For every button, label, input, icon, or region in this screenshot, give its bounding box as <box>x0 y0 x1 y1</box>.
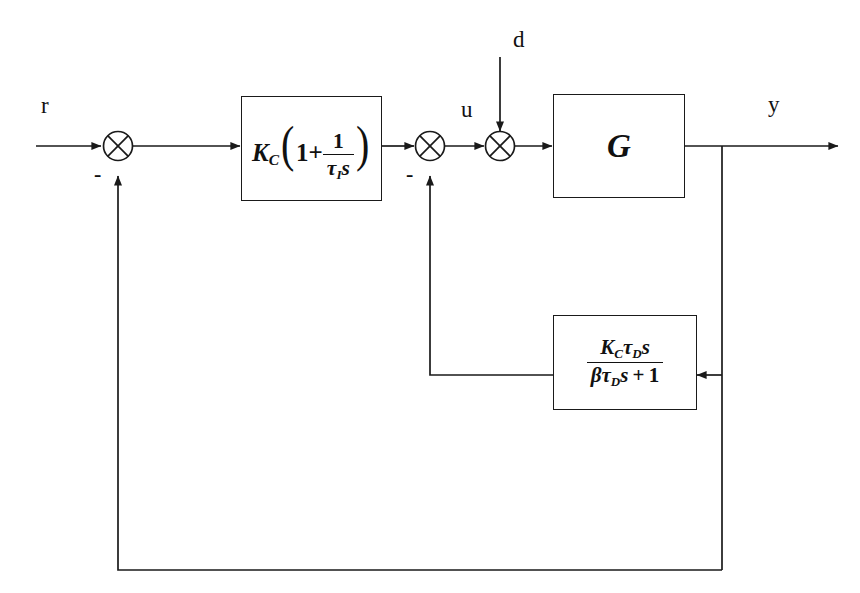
wire-derivative-to-sum2 <box>430 176 553 375</box>
process-block[interactable]: G <box>553 94 685 198</box>
process-block-label: G <box>607 128 631 165</box>
derivative-feedback-block[interactable]: KCτDs βτDs + 1 <box>553 315 697 410</box>
control-signal-label: u <box>461 98 473 121</box>
derivative-formula: KCτDs βτDs + 1 <box>587 336 664 389</box>
summing-junction-2-minus-sign: - <box>406 163 413 185</box>
pi-controller-formula: KC(1+1τIs) <box>252 114 371 182</box>
wire-layer <box>0 0 860 593</box>
derivative-fraction: KCτDs βτDs + 1 <box>587 336 664 389</box>
reference-signal-label: r <box>41 94 49 117</box>
summing-junction-1-minus-sign: - <box>94 163 101 185</box>
output-signal-label: y <box>768 93 780 116</box>
pi-controller-block[interactable]: KC(1+1τIs) <box>241 96 382 201</box>
pi-integral-fraction: 1τIs <box>323 129 354 183</box>
disturbance-signal-label: d <box>513 28 525 51</box>
block-diagram-canvas: KC(1+1τIs) G KCτDs βτDs + 1 r d u y - - <box>0 0 860 593</box>
